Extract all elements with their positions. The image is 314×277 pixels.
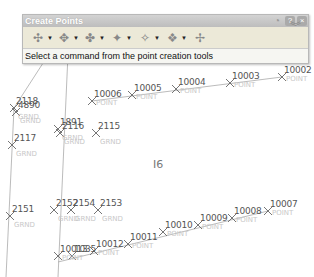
point-number[interactable]: 2115	[98, 122, 120, 131]
point-number[interactable]: 10004	[178, 78, 206, 87]
point-description: POINT	[62, 255, 83, 262]
grid-label: I6	[153, 158, 163, 171]
slope-points-icon: ❖	[165, 31, 179, 45]
point-number[interactable]: 10008	[234, 207, 262, 216]
surface-points-icon: ✦	[110, 31, 124, 45]
point-description: GRND	[64, 139, 85, 146]
alignment-points-icon: ✤	[83, 31, 97, 45]
point-number[interactable]: 10007	[270, 200, 298, 209]
point-number[interactable]: 2116	[62, 122, 84, 131]
point-number[interactable]: 10006	[94, 90, 122, 99]
point-description: POINT	[98, 250, 119, 257]
dropdown-arrow-icon[interactable]: ▼	[181, 35, 187, 41]
point-number[interactable]: 10009	[200, 214, 228, 223]
point-number[interactable]: 10003	[232, 72, 260, 81]
dropdown-arrow-icon[interactable]: ▼	[126, 35, 132, 41]
tool-slope-points[interactable]: ❖▼	[165, 30, 187, 46]
point-number[interactable]: 10011	[130, 233, 158, 242]
point-number[interactable]: 10010	[165, 221, 193, 230]
window-title: Create Points	[25, 15, 83, 27]
tool-interpolate-points[interactable]: ✧▼	[138, 30, 160, 46]
tool-surface-points[interactable]: ✦▼	[110, 30, 132, 46]
tool-miscellaneous-points[interactable]: ✣▼	[31, 30, 53, 46]
import-points-icon: ✢	[193, 31, 207, 45]
tool-import-points[interactable]: ✢	[193, 30, 207, 46]
intersection-points-icon: ✥	[57, 31, 71, 45]
point-description: POINT	[236, 217, 257, 224]
tool-intersection-points[interactable]: ✥▼	[57, 30, 79, 46]
point-number[interactable]: 2117	[14, 134, 36, 143]
tool-alignment-points[interactable]: ✤▼	[83, 30, 105, 46]
chevron-double-down-icon[interactable]: ︾	[290, 18, 301, 34]
point-description: GRND	[100, 139, 121, 146]
point-number[interactable]: 10012	[96, 240, 124, 249]
point-description: GRND	[75, 216, 96, 223]
point-number[interactable]: 2154	[73, 199, 95, 208]
miscellaneous-points-icon: ✣	[31, 31, 45, 45]
point-description: POINT	[180, 88, 201, 95]
point-description: POINT	[286, 76, 307, 83]
point-tools-toolbar: ✣▼✥▼✤▼✦▼✧▼❖▼✢	[23, 28, 308, 48]
point-number[interactable]: 10005	[134, 84, 162, 93]
point-description: POINT	[96, 100, 117, 107]
pin-icon[interactable]: ◔	[272, 16, 282, 26]
point-number[interactable]: 10002	[284, 66, 312, 75]
point-description: POINT	[132, 243, 153, 250]
dropdown-arrow-icon[interactable]: ▼	[73, 35, 79, 41]
point-description: GRND	[20, 118, 41, 125]
interpolate-points-icon: ✧	[138, 31, 152, 45]
point-description: POINT	[272, 210, 293, 217]
dropdown-arrow-icon[interactable]: ▼	[154, 35, 160, 41]
point-number[interactable]: 2151	[12, 205, 34, 214]
status-prompt: Select a command from the point creation…	[23, 48, 308, 63]
point-number[interactable]: 1035	[74, 245, 96, 254]
point-number[interactable]: 4890	[18, 101, 40, 110]
point-description: POINT	[202, 224, 223, 231]
point-description: POINT	[136, 94, 157, 101]
point-description: GRND	[14, 222, 35, 229]
dropdown-arrow-icon[interactable]: ▼	[47, 35, 53, 41]
point-description: GRND	[16, 151, 37, 158]
point-description: POINT	[234, 82, 255, 89]
point-description: POINT	[167, 231, 188, 238]
dropdown-arrow-icon[interactable]: ▼	[99, 35, 105, 41]
title-bar[interactable]: Create Points ◔ ? ×	[23, 15, 308, 27]
point-number[interactable]: 2153	[100, 199, 122, 208]
create-points-toolbar-window[interactable]: Create Points ◔ ? × ✣▼✥▼✤▼✦▼✧▼❖▼✢ ︾ Sele…	[22, 14, 309, 64]
point-description: GRND	[102, 216, 123, 223]
